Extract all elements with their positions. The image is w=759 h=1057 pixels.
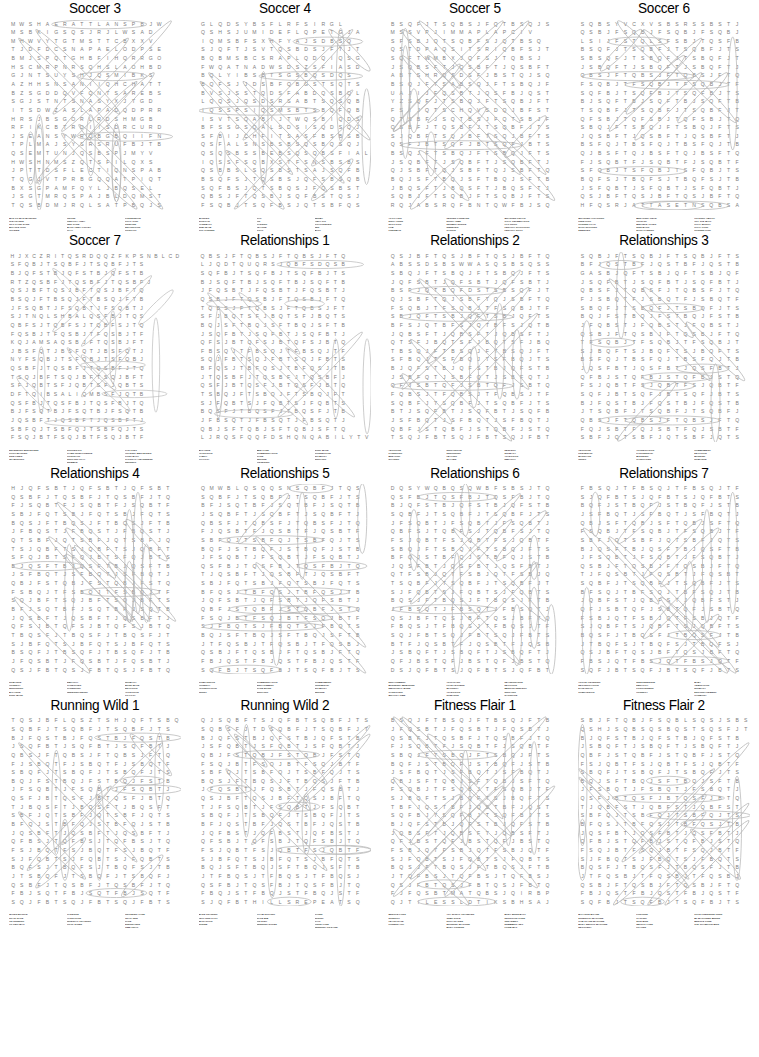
grid-letter[interactable]: T <box>345 768 354 777</box>
grid-letter[interactable]: T <box>724 45 733 54</box>
grid-letter[interactable]: B <box>517 166 526 175</box>
grid-letter[interactable]: T <box>112 484 121 493</box>
grid-letter[interactable]: T <box>431 596 440 605</box>
grid-letter[interactable]: F <box>224 579 233 588</box>
grid-letter[interactable]: B <box>397 751 406 760</box>
grid-letter[interactable]: B <box>199 123 208 132</box>
grid-letter[interactable]: S <box>199 269 207 278</box>
grid-letter[interactable] <box>159 425 166 434</box>
grid-letter[interactable]: S <box>595 785 604 794</box>
grid-letter[interactable]: F <box>35 640 44 649</box>
grid-letter[interactable]: S <box>698 725 707 734</box>
grid-letter[interactable] <box>167 433 174 442</box>
grid-letter[interactable]: B <box>293 45 302 54</box>
grid-letter[interactable]: T <box>483 734 492 743</box>
grid-letter[interactable]: J <box>319 631 328 640</box>
grid-letter[interactable]: F <box>138 330 145 339</box>
grid-letter[interactable]: Q <box>397 562 406 571</box>
grid-letter[interactable]: F <box>483 20 492 29</box>
puzzle-card[interactable]: Relationships 5QMWBLQSQQSNSQBFJTQSSQBFJT… <box>190 465 380 697</box>
grid-letter[interactable]: J <box>440 605 449 614</box>
grid-letter[interactable]: J <box>319 501 328 510</box>
grid-letter[interactable]: B <box>595 330 604 339</box>
grid-letter[interactable]: T <box>673 97 682 106</box>
grid-letter[interactable]: T <box>131 433 138 442</box>
grid-letter[interactable]: T <box>285 269 293 278</box>
grid-letter[interactable]: S <box>500 648 509 657</box>
grid-letter[interactable]: A <box>78 45 87 54</box>
word-list-entry[interactable]: THE CHAMPION BIKE <box>694 923 750 926</box>
grid-letter[interactable]: Q <box>578 605 587 614</box>
grid-letter[interactable]: B <box>543 863 552 872</box>
grid-letter[interactable]: B <box>526 115 535 124</box>
grid-letter[interactable]: J <box>440 648 449 657</box>
grid-letter[interactable]: T <box>86 158 95 167</box>
grid-letter[interactable]: B <box>233 614 242 623</box>
grid-letter[interactable]: J <box>509 106 518 115</box>
grid-letter[interactable]: F <box>604 579 613 588</box>
grid-letter[interactable]: B <box>277 381 285 390</box>
grid-letter[interactable]: F <box>526 132 535 141</box>
grid-letter[interactable]: T <box>500 872 509 881</box>
grid-letter[interactable]: Q <box>276 742 285 751</box>
grid-letter[interactable]: F <box>698 510 707 519</box>
grid-letter[interactable]: Q <box>259 596 268 605</box>
grid-letter[interactable]: F <box>517 45 526 54</box>
grid-letter[interactable]: B <box>543 501 552 510</box>
grid-letter[interactable]: S <box>698 115 707 124</box>
grid-letter[interactable]: H <box>250 898 259 907</box>
grid-letter[interactable]: S <box>69 588 78 597</box>
grid-letter[interactable]: J <box>78 605 87 614</box>
grid-letter[interactable]: B <box>681 97 690 106</box>
grid-letter[interactable]: B <box>707 106 716 115</box>
grid-letter[interactable]: S <box>492 269 501 278</box>
grid-letter[interactable]: F <box>259 820 268 829</box>
grid-letter[interactable]: Q <box>300 304 308 313</box>
grid-letter[interactable]: T <box>621 588 630 597</box>
grid-letter[interactable]: F <box>214 399 222 408</box>
grid-letter[interactable]: B <box>253 347 261 356</box>
grid-letter[interactable]: T <box>103 493 112 502</box>
grid-letter[interactable]: J <box>604 837 613 846</box>
grid-letter[interactable]: Q <box>310 829 319 838</box>
grid-letter[interactable]: F <box>690 837 699 846</box>
grid-letter[interactable]: S <box>578 579 587 588</box>
grid-letter[interactable]: F <box>336 510 345 519</box>
grid-letter[interactable]: S <box>449 416 458 425</box>
grid-letter[interactable]: Q <box>647 803 656 812</box>
grid-letter[interactable]: B <box>78 588 87 597</box>
grid-letter[interactable]: B <box>526 381 535 390</box>
grid-letter[interactable]: T <box>88 295 95 304</box>
grid-letter[interactable]: S <box>43 80 52 89</box>
grid-letter[interactable]: D <box>129 106 138 115</box>
grid-letter[interactable]: B <box>664 184 673 193</box>
grid-letter[interactable]: S <box>316 416 324 425</box>
grid-letter[interactable]: Q <box>595 846 604 855</box>
grid-letter[interactable]: J <box>259 855 268 864</box>
grid-letter[interactable]: P <box>310 898 319 907</box>
grid-letter[interactable]: B <box>578 501 587 510</box>
grid-letter[interactable]: B <box>655 166 664 175</box>
grid-letter[interactable]: J <box>316 338 324 347</box>
grid-letter[interactable]: J <box>9 872 18 881</box>
grid-letter[interactable]: Q <box>112 579 121 588</box>
grid-letter[interactable]: Q <box>9 286 16 295</box>
grid-letter[interactable]: S <box>526 898 535 907</box>
grid-letter[interactable]: T <box>673 425 682 434</box>
grid-letter[interactable]: J <box>26 889 35 898</box>
grid-letter[interactable]: F <box>319 545 328 554</box>
grid-letter[interactable]: B <box>733 716 742 725</box>
grid-letter[interactable]: T <box>621 123 630 132</box>
grid-letter[interactable]: F <box>664 106 673 115</box>
grid-letter[interactable]: F <box>116 364 123 373</box>
grid-letter[interactable]: F <box>414 734 423 743</box>
grid-letter[interactable]: B <box>423 588 432 597</box>
grid-letter[interactable] <box>362 115 371 124</box>
grid-letter[interactable]: Q <box>121 54 130 63</box>
grid-letter[interactable] <box>167 269 174 278</box>
grid-letter[interactable]: C <box>52 45 61 54</box>
grid-letter[interactable]: B <box>698 562 707 571</box>
grid-letter[interactable]: J <box>474 123 483 132</box>
grid-letter[interactable]: S <box>207 648 216 657</box>
grid-letter[interactable]: F <box>587 785 596 794</box>
